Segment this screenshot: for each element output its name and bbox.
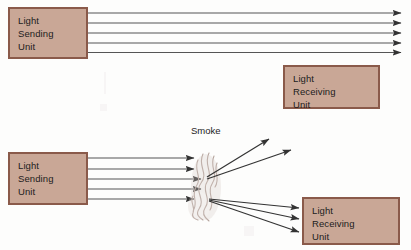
unit-label-line2: Receiving — [293, 85, 378, 98]
smoke-haze — [188, 154, 221, 220]
diagram-canvas: Light Sending Unit Light Receiving Unit … — [0, 0, 411, 250]
light-receiving-unit-top: Light Receiving Unit — [283, 65, 380, 109]
bottom-incident-beam-group — [88, 158, 201, 199]
unit-label-line3: Unit — [293, 98, 378, 111]
light-sending-unit-bottom: Light Sending Unit — [8, 152, 88, 205]
smoke-label: Smoke — [191, 125, 221, 136]
unit-label-line2: Sending — [18, 172, 86, 185]
scattered-ray-recv-1 — [209, 199, 299, 208]
unit-label-line3: Unit — [312, 230, 398, 243]
light-receiving-unit-bottom: Light Receiving Unit — [302, 197, 400, 245]
unit-label-line2: Receiving — [312, 217, 398, 230]
scattered-ray-up-1 — [207, 139, 269, 177]
top-beam-group — [88, 13, 401, 53]
unit-label-line1: Light — [18, 14, 86, 27]
unit-label-line1: Light — [312, 204, 398, 217]
unit-label-line1: Light — [293, 72, 378, 85]
unit-label-line2: Sending — [18, 27, 86, 40]
unit-label-line3: Unit — [18, 185, 86, 198]
light-sending-unit-top: Light Sending Unit — [8, 7, 88, 59]
unit-label-line3: Unit — [18, 40, 86, 53]
unit-label-line1: Light — [18, 159, 86, 172]
scattered-ray-up-2 — [207, 150, 291, 179]
